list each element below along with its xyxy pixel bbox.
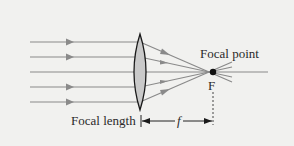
focal-point-dot xyxy=(210,69,216,75)
converging-lens xyxy=(134,34,146,110)
arrow-icon xyxy=(66,99,74,106)
lens-diagram: Focal point F Focal length f xyxy=(0,0,294,146)
arrow-icon xyxy=(66,39,74,46)
ray-diagram-svg xyxy=(0,0,294,146)
focal-length-label: Focal length xyxy=(71,113,136,129)
focal-point-label: Focal point xyxy=(200,46,259,62)
arrow-icon xyxy=(66,54,74,61)
arrow-icon xyxy=(66,84,74,91)
focal-length-symbol: f xyxy=(175,113,183,129)
focal-point-symbol: F xyxy=(208,78,215,94)
